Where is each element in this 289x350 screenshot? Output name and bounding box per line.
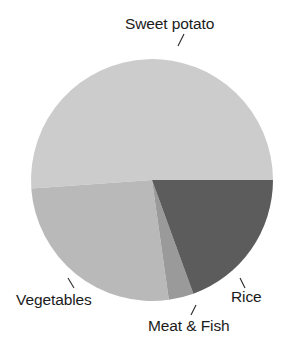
pie-slice-sweet-potato (31, 59, 273, 188)
leader-line-sweet-potato (178, 34, 184, 46)
slice-label-rice: Rice (231, 289, 262, 305)
pie-slice-vegetables (31, 180, 169, 301)
leader-line-rice (240, 278, 245, 288)
slice-label-sweet-potato: Sweet potato (125, 16, 214, 32)
slice-label-meat-and-fish: Meat & Fish (148, 318, 230, 334)
leader-line-meat-fish (191, 305, 196, 315)
pie-chart: Sweet potato Vegetables Meat & Fish Rice (0, 0, 289, 350)
pie-slices-group (31, 59, 273, 301)
slice-label-vegetables: Vegetables (16, 292, 92, 308)
leader-line-vegetables (68, 278, 74, 288)
